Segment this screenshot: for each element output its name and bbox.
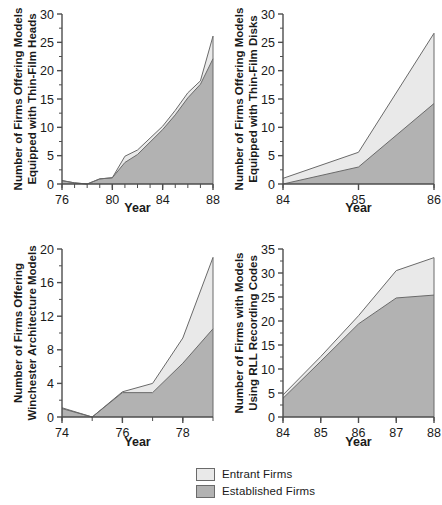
y-tick-label: 35 [261, 243, 275, 257]
x-tick-label: 88 [427, 426, 441, 440]
y-tick-label: 15 [40, 93, 54, 107]
chart-panel-rll-recording-codes: 051015202530358485868788YearNumber of Fi… [221, 231, 442, 462]
x-tick-label: 78 [176, 426, 190, 440]
y-tick-label: 30 [261, 267, 275, 281]
x-axis-title: Year [124, 201, 151, 215]
charts-grid: 05101520253076808488YearNumber of Firms … [0, 0, 442, 462]
y-tick-label: 16 [40, 276, 54, 290]
x-tick-label: 87 [389, 426, 403, 440]
chart-panel-thin-film-heads: 05101520253076808488YearNumber of Firms … [0, 0, 221, 231]
legend-item-entrant: Entrant Firms [196, 466, 396, 482]
x-tick-label: 88 [206, 193, 220, 207]
y-tick-label: 15 [261, 93, 275, 107]
y-tick-label: 10 [261, 363, 275, 377]
y-tick-label: 0 [268, 178, 275, 192]
x-tick-label: 80 [105, 193, 119, 207]
y-tick-label: 20 [261, 64, 275, 78]
figure: 05101520253076808488YearNumber of Firms … [0, 0, 442, 505]
y-axis-title-line: Number of Firms Offering Models [233, 8, 245, 191]
y-tick-label: 12 [40, 310, 54, 324]
x-axis-title: Year [345, 201, 372, 215]
y-tick-label: 0 [47, 411, 54, 425]
x-tick-label: 84 [276, 193, 290, 207]
y-axis-title-line: Equipped with Thin-Film Heads [26, 13, 38, 184]
x-tick-label: 84 [156, 193, 170, 207]
y-tick-label: 30 [40, 8, 54, 22]
y-axis-title-line: Equipped with Thin-Film Disks [247, 15, 259, 182]
legend-item-established: Established Firms [196, 483, 396, 499]
y-tick-label: 0 [47, 178, 54, 192]
y-axis-title-line: Winchester Architecture Models [26, 245, 38, 420]
x-tick-label: 85 [314, 426, 328, 440]
legend-label-established: Established Firms [222, 485, 315, 497]
y-axis-title-line: Number of Firms with Models [233, 252, 245, 413]
y-tick-label: 25 [261, 291, 275, 305]
y-tick-label: 20 [261, 315, 275, 329]
y-tick-label: 15 [261, 339, 275, 353]
x-tick-label: 86 [427, 193, 441, 207]
y-tick-label: 25 [40, 36, 54, 50]
x-tick-label: 74 [55, 426, 69, 440]
y-tick-label: 30 [261, 8, 275, 22]
x-tick-label: 84 [276, 426, 290, 440]
x-tick-label: 76 [55, 193, 69, 207]
x-axis-title: Year [124, 435, 151, 449]
y-axis-title-line: Number of Firms Offering [12, 263, 24, 403]
legend-label-entrant: Entrant Firms [222, 468, 292, 480]
area-established-firms [62, 59, 213, 184]
y-tick-label: 4 [47, 377, 54, 391]
chart-panel-winchester-architecture: 048121620747678YearNumber of Firms Offer… [0, 231, 221, 462]
y-tick-label: 5 [47, 149, 54, 163]
legend: Entrant Firms Established Firms [196, 466, 396, 500]
y-axis-title-line: Number of Firms Offering Models [12, 8, 24, 191]
x-axis-title: Year [345, 435, 372, 449]
y-tick-label: 5 [268, 149, 275, 163]
y-tick-label: 10 [40, 121, 54, 135]
y-tick-label: 20 [40, 64, 54, 78]
area-established-firms [283, 295, 434, 417]
chart-panel-thin-film-disks: 051015202530848586YearNumber of Firms Of… [221, 0, 442, 231]
legend-swatch-entrant [196, 468, 215, 481]
y-axis-title-line: Using RLL Recording Codes [247, 255, 259, 411]
y-tick-label: 25 [261, 36, 275, 50]
y-tick-label: 5 [268, 387, 275, 401]
y-tick-label: 10 [261, 121, 275, 135]
y-tick-label: 0 [268, 411, 275, 425]
y-tick-label: 8 [47, 343, 54, 357]
y-tick-label: 20 [40, 243, 54, 257]
legend-swatch-established [196, 485, 215, 498]
